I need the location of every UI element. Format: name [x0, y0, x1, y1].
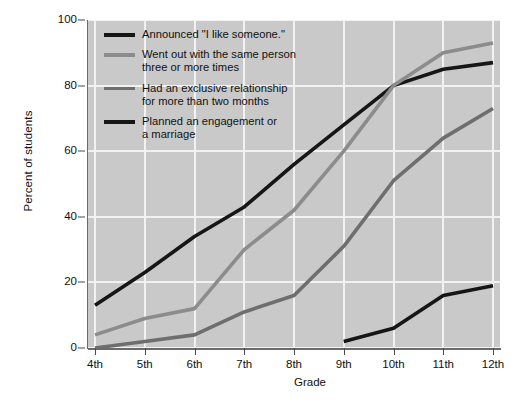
chart-legend: Announced "I like someone."Went out with…	[104, 28, 344, 148]
x-tick-mark	[394, 348, 395, 355]
legend-label: Went out with the same person three or m…	[142, 48, 296, 74]
legend-swatch-line-icon	[104, 33, 135, 37]
x-tick-mark	[195, 348, 196, 355]
y-tick-label: 20	[17, 277, 77, 289]
legend-swatch-line-icon	[104, 120, 135, 124]
x-tick-mark	[344, 348, 345, 355]
legend-item[interactable]: Planned an engagement or a marriage	[104, 115, 344, 141]
series-line-3	[344, 286, 493, 342]
legend-label: Announced "I like someone."	[142, 28, 285, 41]
legend-item[interactable]: Announced "I like someone."	[104, 28, 344, 41]
x-axis-title: Grade	[0, 376, 532, 388]
y-tick-mark	[78, 20, 85, 21]
y-tick-label: 80	[17, 80, 77, 92]
x-tick-mark	[443, 348, 444, 355]
y-tick-mark	[78, 151, 85, 152]
line-chart: Percent of students 020406080100 4th5th6…	[0, 0, 532, 405]
y-tick-mark	[78, 85, 85, 86]
x-tick-mark	[95, 348, 96, 355]
x-tick-label: 12th	[463, 358, 523, 370]
x-tick-mark	[294, 348, 295, 355]
legend-item[interactable]: Had an exclusive relationship for more t…	[104, 82, 344, 108]
x-tick-mark	[145, 348, 146, 355]
y-tick-label: 40	[17, 211, 77, 223]
y-tick-mark	[78, 216, 85, 217]
legend-swatch-line-icon	[104, 53, 135, 57]
legend-label: Planned an engagement or a marriage	[142, 115, 277, 141]
x-tick-mark	[493, 348, 494, 355]
legend-item[interactable]: Went out with the same person three or m…	[104, 48, 344, 74]
y-tick-mark	[78, 282, 85, 283]
legend-label: Had an exclusive relationship for more t…	[142, 82, 288, 108]
legend-swatch-line-icon	[104, 87, 135, 91]
y-axis-ticks: 020406080100	[0, 0, 88, 405]
x-tick-mark	[244, 348, 245, 355]
y-tick-label: 100	[17, 14, 77, 26]
y-tick-label: 60	[17, 145, 77, 157]
